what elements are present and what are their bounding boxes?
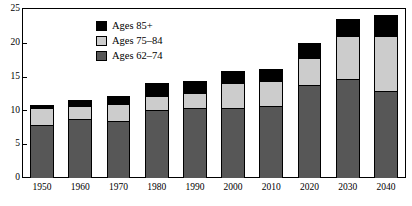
bar-1980[interactable]	[145, 83, 169, 178]
y-tick-text: 10	[11, 106, 23, 116]
legend-label-ages-62-74: Ages 62–74	[112, 50, 162, 61]
bar-segment-1980-ages-75-84	[145, 96, 169, 111]
x-tick-label-2040: 2040	[367, 182, 405, 193]
bar-segment-2020-ages-75-84	[298, 58, 322, 86]
bar-segment-1990-ages-62-74	[183, 108, 207, 178]
bar-segment-1960-ages-62-74	[68, 119, 92, 178]
y-tick-text: 0	[15, 173, 22, 183]
y-tick-text: 15	[11, 72, 23, 82]
bar-segment-1970-ages-75-84	[107, 104, 131, 120]
bar-segment-2030-ages-85-	[336, 19, 360, 36]
legend-swatch-darkgray-icon	[96, 51, 107, 61]
bars-layer	[23, 9, 405, 178]
x-tick-label-1980: 1980	[138, 182, 176, 193]
x-tick-label-1950: 1950	[23, 182, 61, 193]
x-axis: 1950196019701980199020002010202020302040	[23, 179, 405, 206]
legend-swatch-black-icon	[96, 21, 107, 31]
bar-segment-2000-ages-75-84	[221, 83, 245, 109]
bar-segment-2040-ages-62-74	[374, 91, 398, 178]
bar-slot-2040	[367, 9, 405, 178]
bar-segment-1980-ages-62-74	[145, 110, 169, 178]
legend-item-ages-85-plus: Ages 85+	[96, 19, 162, 32]
bar-1990[interactable]	[183, 81, 207, 178]
bar-segment-2040-ages-75-84	[374, 36, 398, 91]
bar-segment-2030-ages-62-74	[336, 79, 360, 178]
y-tick-text: 25	[11, 4, 23, 14]
x-tick-label-1970: 1970	[99, 182, 137, 193]
x-tick-label-1960: 1960	[61, 182, 99, 193]
y-tick-mark	[23, 43, 27, 44]
y-tick-text: 5	[15, 139, 22, 149]
y-tick-mark	[23, 110, 27, 111]
bar-1970[interactable]	[107, 96, 131, 178]
x-tick-label-2030: 2030	[329, 182, 367, 193]
bar-slot-1960	[61, 9, 99, 178]
bar-2020[interactable]	[298, 43, 322, 178]
y-tick-mark	[23, 77, 27, 78]
bar-segment-2020-ages-62-74	[298, 85, 322, 178]
bar-segment-1990-ages-75-84	[183, 93, 207, 108]
legend-swatch-lightgray-icon	[96, 36, 107, 46]
x-tick-label-2010: 2010	[252, 182, 290, 193]
bar-slot-1950	[23, 9, 61, 178]
bar-segment-1970-ages-85-	[107, 96, 131, 104]
chart-legend: Ages 85+ Ages 75–84 Ages 62–74	[96, 19, 162, 62]
legend-label-ages-75-84: Ages 75–84	[112, 35, 162, 46]
y-axis: 0510152025	[0, 0, 22, 206]
bar-2000[interactable]	[221, 71, 245, 178]
x-tick-label-2000: 2000	[214, 182, 252, 193]
bar-slot-2000	[214, 9, 252, 178]
x-tick-label-1990: 1990	[176, 182, 214, 193]
bar-slot-2020	[290, 9, 328, 178]
bar-segment-1970-ages-62-74	[107, 121, 131, 178]
bar-segment-2000-ages-85-	[221, 71, 245, 83]
bar-segment-2040-ages-85-	[374, 15, 398, 36]
bar-segment-2020-ages-85-	[298, 43, 322, 58]
bar-slot-2010	[252, 9, 290, 178]
bar-1960[interactable]	[68, 100, 92, 178]
legend-item-ages-75-84: Ages 75–84	[96, 34, 162, 47]
bar-segment-1950-ages-62-74	[30, 125, 54, 178]
bar-slot-2030	[329, 9, 367, 178]
bar-segment-1980-ages-85-	[145, 83, 169, 95]
bar-2040[interactable]	[374, 15, 398, 178]
bar-segment-2010-ages-75-84	[259, 81, 283, 106]
bar-1950[interactable]	[30, 105, 54, 178]
legend-item-ages-62-74: Ages 62–74	[96, 49, 162, 62]
y-tick-mark	[23, 144, 27, 145]
stacked-bar-chart: 0510152025 19501960197019801990200020102…	[0, 0, 412, 206]
bar-segment-2010-ages-85-	[259, 69, 283, 81]
bar-2010[interactable]	[259, 69, 283, 178]
legend-label-ages-85-plus: Ages 85+	[112, 20, 153, 31]
x-tick-label-2020: 2020	[290, 182, 328, 193]
bar-segment-2030-ages-75-84	[336, 36, 360, 79]
bar-segment-2010-ages-62-74	[259, 106, 283, 178]
bar-segment-1950-ages-75-84	[30, 108, 54, 124]
bar-segment-2000-ages-62-74	[221, 108, 245, 178]
bar-segment-1960-ages-75-84	[68, 106, 92, 120]
bar-slot-1990	[176, 9, 214, 178]
bar-2030[interactable]	[336, 19, 360, 178]
bar-segment-1990-ages-85-	[183, 81, 207, 93]
y-tick-text: 20	[11, 38, 23, 48]
